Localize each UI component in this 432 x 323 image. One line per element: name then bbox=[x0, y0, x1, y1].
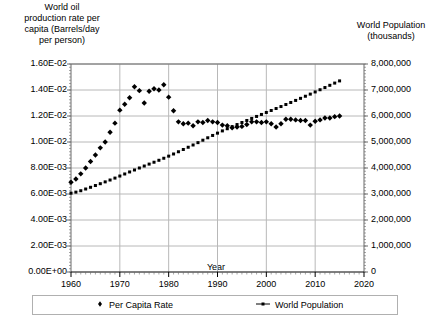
data-point-square bbox=[236, 123, 239, 126]
data-point-diamond bbox=[312, 119, 317, 124]
data-point-diamond bbox=[78, 171, 83, 176]
data-point-square bbox=[94, 184, 97, 187]
legend-line-dot-icon bbox=[255, 299, 271, 311]
data-point-square bbox=[265, 111, 268, 114]
data-point-diamond bbox=[112, 120, 117, 125]
data-point-diamond bbox=[127, 95, 132, 100]
data-point-diamond bbox=[186, 120, 191, 125]
legend-item-per-capita-rate: Per Capita Rate bbox=[95, 299, 173, 311]
data-point-square bbox=[74, 191, 77, 194]
data-point-diamond bbox=[244, 122, 249, 127]
data-point-square bbox=[255, 115, 258, 118]
data-point-square bbox=[323, 86, 326, 89]
data-point-diamond bbox=[117, 107, 122, 112]
data-point-square bbox=[328, 84, 331, 87]
data-point-square bbox=[138, 167, 141, 170]
data-point-diamond bbox=[249, 119, 254, 124]
data-point-diamond bbox=[146, 89, 151, 94]
data-point-square bbox=[211, 134, 214, 137]
data-point-square bbox=[309, 93, 312, 96]
data-point-diamond bbox=[137, 88, 142, 93]
data-point-square bbox=[118, 175, 121, 178]
data-point-square bbox=[245, 119, 248, 122]
data-point-square bbox=[143, 165, 146, 168]
data-point-diamond bbox=[107, 130, 112, 135]
data-point-diamond bbox=[303, 118, 308, 123]
data-point-square bbox=[314, 90, 317, 93]
data-point-square bbox=[221, 129, 224, 132]
data-point-diamond bbox=[195, 119, 200, 124]
data-point-square bbox=[304, 95, 307, 98]
data-point-square bbox=[206, 136, 209, 139]
data-point-diamond bbox=[171, 108, 176, 113]
data-point-square bbox=[162, 157, 165, 160]
data-point-diamond bbox=[293, 117, 298, 122]
data-point-square bbox=[128, 170, 131, 173]
data-point-diamond bbox=[254, 119, 259, 124]
data-point-diamond bbox=[205, 118, 210, 123]
data-point-diamond bbox=[288, 117, 293, 122]
data-point-square bbox=[157, 159, 160, 162]
data-point-diamond bbox=[166, 94, 171, 99]
data-point-square bbox=[167, 155, 170, 158]
data-point-diamond bbox=[220, 122, 225, 127]
data-point-diamond bbox=[337, 113, 342, 118]
data-point-square bbox=[133, 168, 136, 171]
data-point-square bbox=[84, 188, 87, 191]
data-point-square bbox=[289, 101, 292, 104]
data-point-square bbox=[201, 139, 204, 142]
data-point-diamond bbox=[332, 114, 337, 119]
data-point-square bbox=[294, 99, 297, 102]
data-point-square bbox=[226, 127, 229, 130]
data-point-square bbox=[187, 146, 190, 149]
data-point-square bbox=[240, 121, 243, 124]
data-point-square bbox=[260, 113, 263, 116]
data-point-square bbox=[250, 117, 253, 120]
data-point-square bbox=[338, 79, 341, 82]
data-point-diamond bbox=[98, 145, 103, 150]
data-point-square bbox=[333, 82, 336, 85]
data-point-square bbox=[284, 103, 287, 106]
data-point-diamond bbox=[210, 119, 215, 124]
chart-legend: Per Capita Rate World Population bbox=[32, 295, 398, 315]
data-point-diamond bbox=[102, 139, 107, 144]
data-point-diamond bbox=[122, 102, 127, 107]
legend-diamond-icon bbox=[95, 299, 105, 311]
data-point-square bbox=[192, 143, 195, 146]
data-point-square bbox=[148, 163, 151, 166]
data-point-diamond bbox=[317, 117, 322, 122]
data-point-square bbox=[216, 132, 219, 135]
data-point-square bbox=[89, 186, 92, 189]
data-point-diamond bbox=[200, 120, 205, 125]
data-point-diamond bbox=[88, 159, 93, 164]
data-point-diamond bbox=[278, 121, 283, 126]
data-point-diamond bbox=[239, 124, 244, 129]
data-point-square bbox=[123, 172, 126, 175]
data-point-square bbox=[279, 105, 282, 108]
data-point-diamond bbox=[151, 86, 156, 91]
data-point-diamond bbox=[132, 84, 137, 89]
data-point-square bbox=[299, 97, 302, 100]
data-point-diamond bbox=[156, 87, 161, 92]
data-point-diamond bbox=[283, 117, 288, 122]
data-point-square bbox=[79, 189, 82, 192]
data-point-diamond bbox=[73, 176, 78, 181]
data-point-diamond bbox=[83, 165, 88, 170]
data-point-diamond bbox=[273, 124, 278, 129]
legend-label: Per Capita Rate bbox=[109, 300, 173, 310]
data-point-diamond bbox=[308, 122, 313, 127]
legend-label: World Population bbox=[275, 300, 343, 310]
plot-area bbox=[0, 0, 432, 323]
data-point-square bbox=[319, 88, 322, 91]
data-point-diamond bbox=[215, 120, 220, 125]
data-point-square bbox=[104, 180, 107, 183]
data-point-square bbox=[153, 161, 156, 164]
data-point-square bbox=[196, 141, 199, 144]
data-point-square bbox=[109, 179, 112, 182]
data-point-square bbox=[182, 148, 185, 151]
data-point-diamond bbox=[259, 120, 264, 125]
data-point-diamond bbox=[298, 118, 303, 123]
data-point-square bbox=[113, 177, 116, 180]
data-point-diamond bbox=[93, 152, 98, 157]
data-point-square bbox=[275, 107, 278, 110]
